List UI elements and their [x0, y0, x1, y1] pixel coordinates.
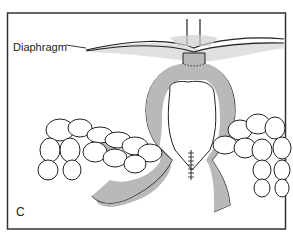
figure-frame: [8, 13, 147, 117]
suture-marks: [188, 153, 194, 177]
diaphragm-label: Diaphragm: [13, 41, 67, 53]
figure-border: [8, 13, 148, 117]
esophagus-shadow: [170, 35, 218, 46]
panel-border: [7, 12, 147, 114]
bowel-left: [38, 119, 162, 180]
panel-letter: C: [16, 205, 25, 219]
diaphragm-leader-line: [66, 45, 86, 48]
outer-frame: [8, 13, 148, 117]
surgical-illustration: [0, 0, 293, 234]
frame: [8, 13, 148, 117]
